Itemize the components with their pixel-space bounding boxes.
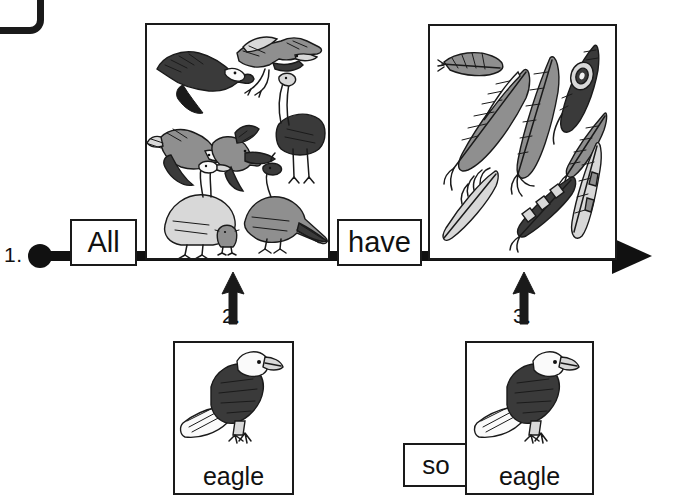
birds-illustration xyxy=(147,25,328,258)
feathers-illustration xyxy=(430,26,615,258)
eagle-art-left xyxy=(175,343,292,450)
pointer-arrow-up-3-icon xyxy=(509,272,539,324)
word-box-have[interactable]: have xyxy=(337,219,422,266)
bird-chick-icon xyxy=(215,225,239,255)
bird-songbird-icon xyxy=(212,126,275,191)
card-caption-eagle-right: eagle xyxy=(467,464,592,489)
picture-panel-feathers[interactable] xyxy=(428,24,617,260)
eagle-art-right xyxy=(467,343,592,450)
card-caption-eagle-left: eagle xyxy=(175,464,292,489)
bird-ostrich-icon xyxy=(276,73,325,183)
word-box-all[interactable]: All xyxy=(70,219,137,266)
bird-heron-icon xyxy=(237,37,321,97)
step-number-1: 1. xyxy=(4,244,23,265)
picture-panel-birds[interactable] xyxy=(145,23,330,260)
vocabulary-card-eagle-left[interactable]: eagle xyxy=(173,341,294,495)
feather-barred-icon xyxy=(510,177,576,252)
pointer-arrow-up-2-icon xyxy=(218,272,248,324)
timeline-arrowhead-icon xyxy=(612,238,652,274)
vocabulary-card-eagle-right[interactable]: eagle xyxy=(465,341,594,495)
corner-logo-icon xyxy=(0,0,44,34)
word-box-so[interactable]: so xyxy=(403,443,469,487)
bird-pheasant-icon xyxy=(245,153,328,253)
feather-small-icon xyxy=(438,53,503,76)
